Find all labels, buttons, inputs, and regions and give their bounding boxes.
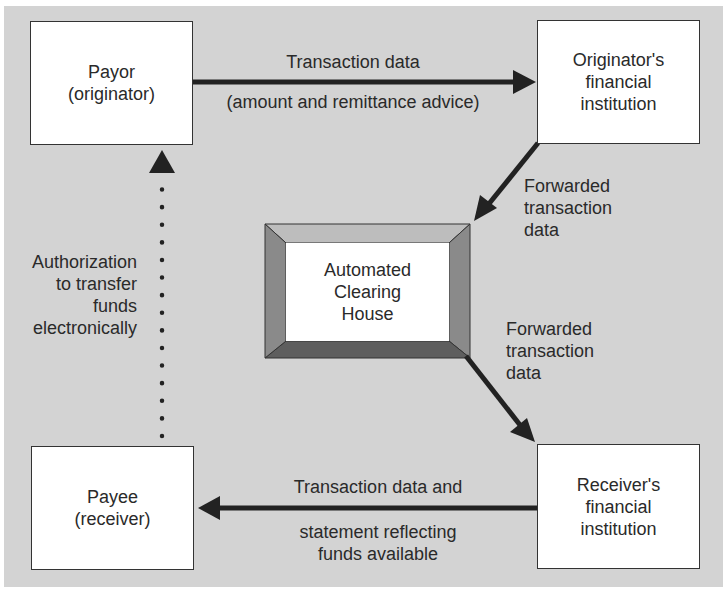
node-originator-fi: Originator's financial institution bbox=[537, 20, 700, 144]
edge-label-ofi-to-ach-line2: transaction bbox=[524, 197, 612, 219]
node-ach-line1: Automated bbox=[324, 259, 411, 281]
edge-label-rfi-to-payee-bottom: statement reflecting funds available bbox=[220, 521, 536, 565]
node-ach-line3: House bbox=[324, 303, 411, 325]
node-receiver-fi-line2: financial bbox=[577, 496, 660, 518]
node-receiver-fi-line3: institution bbox=[577, 518, 660, 540]
node-ach-line2: Clearing bbox=[324, 281, 411, 303]
edge-label-payee-to-payor-line2: to transfer bbox=[8, 273, 137, 295]
node-originator-fi-line2: financial bbox=[573, 71, 664, 93]
edge-label-rfi-to-payee-line3: funds available bbox=[220, 543, 536, 565]
edge-label-payee-to-payor-line1: Authorization bbox=[8, 251, 137, 273]
node-ach: Automated Clearing House bbox=[286, 243, 449, 341]
edge-label-rfi-to-payee-line2: statement reflecting bbox=[220, 521, 536, 543]
edge-label-rfi-to-payee-top: Transaction data and bbox=[220, 476, 536, 498]
edge-label-ofi-to-ach-line3: data bbox=[524, 219, 612, 241]
arrow-receiver-fi-to-payee bbox=[198, 496, 538, 520]
node-originator-fi-line3: institution bbox=[573, 93, 664, 115]
edge-label-payee-to-payor-line3: funds bbox=[8, 295, 137, 317]
edge-label-payee-to-payor-line4: electronically bbox=[8, 317, 137, 339]
node-originator-fi-line1: Originator's bbox=[573, 49, 664, 71]
edge-label-ofi-to-ach-line1: Forwarded bbox=[524, 175, 612, 197]
node-payor-line2: (originator) bbox=[68, 83, 155, 105]
edge-label-ach-to-rfi-line2: transaction bbox=[506, 340, 594, 362]
node-payee-line2: (receiver) bbox=[74, 508, 150, 530]
edge-label-payor-to-ofi-bottom: (amount and remittance advice) bbox=[193, 91, 513, 113]
node-receiver-fi: Receiver's financial institution bbox=[537, 444, 700, 569]
edge-label-payor-to-ofi-top: Transaction data bbox=[193, 51, 513, 73]
edge-label-payee-to-payor: Authorization to transfer funds electron… bbox=[8, 251, 137, 339]
edge-label-ach-to-rfi-line1: Forwarded bbox=[506, 318, 594, 340]
edge-label-ach-to-rfi: Forwarded transaction data bbox=[506, 318, 594, 384]
node-receiver-fi-line1: Receiver's bbox=[577, 474, 660, 496]
node-payor: Payor (originator) bbox=[30, 21, 193, 145]
edge-label-ach-to-rfi-line3: data bbox=[506, 362, 594, 384]
node-payee-line1: Payee bbox=[74, 486, 150, 508]
node-payee: Payee (receiver) bbox=[31, 446, 194, 570]
edge-label-ofi-to-ach: Forwarded transaction data bbox=[524, 175, 612, 241]
node-payor-line1: Payor bbox=[68, 61, 155, 83]
dotted-arrow-payee-to-payor bbox=[149, 150, 175, 436]
